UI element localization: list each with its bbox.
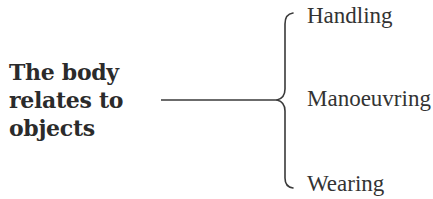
branch-wearing: Wearing bbox=[307, 171, 384, 197]
branch-manoeuvring: Manoeuvring bbox=[307, 86, 431, 112]
branch-handling: Handling bbox=[307, 3, 393, 29]
curly-brace-icon bbox=[277, 13, 293, 188]
brace-diagram: The body relates to objects Handling Man… bbox=[0, 0, 433, 199]
